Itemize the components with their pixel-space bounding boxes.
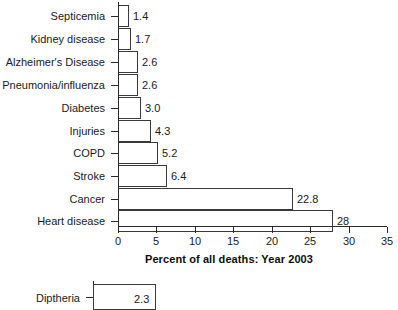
y-tick-kidney-disease — [111, 39, 118, 40]
category-label-stroke: Stroke — [73, 170, 105, 182]
bar-septicemia — [118, 5, 129, 27]
category-label-injuries: Injuries — [70, 125, 105, 137]
category-label-pneumonia-influenza: Pneumonia/influenza — [2, 79, 105, 91]
x-tick-label-25: 25 — [295, 235, 325, 247]
main-plot-area: Septicemia Kidney disease Alzheimer's Di… — [0, 0, 398, 250]
category-label-heart-disease: Heart disease — [37, 215, 105, 227]
x-tick-25 — [310, 227, 311, 233]
bar-heart-disease — [118, 210, 333, 232]
y-tick-copd — [111, 153, 118, 154]
y-tick-heart-disease — [111, 221, 118, 222]
y-tick-cancer — [111, 199, 118, 200]
y-tick-diabetes — [111, 108, 118, 109]
x-tick-label-5: 5 — [141, 235, 171, 247]
bar-cancer — [118, 188, 293, 210]
bar-pneumonia-influenza — [118, 74, 138, 96]
y-axis-line — [118, 2, 119, 226]
x-axis-line — [118, 226, 387, 227]
category-label-septicemia: Septicemia — [51, 10, 105, 22]
y-tick-injuries — [111, 131, 118, 132]
x-tick-10 — [195, 227, 196, 233]
value-label-septicemia: 1.4 — [133, 10, 148, 22]
bar-copd — [118, 142, 158, 164]
value-label-diptheria: 2.3 — [134, 293, 149, 305]
category-label-kidney-disease: Kidney disease — [30, 33, 105, 45]
secondary-plot-area: Diptheria 2.3 — [0, 281, 398, 305]
bar-diabetes — [118, 97, 141, 119]
bar-alzheimers-disease — [118, 51, 138, 73]
value-label-cancer: 22.8 — [297, 193, 318, 205]
x-tick-label-35: 35 — [372, 235, 398, 247]
x-tick-30 — [349, 227, 350, 233]
x-tick-20 — [272, 227, 273, 233]
x-tick-35 — [387, 227, 388, 233]
category-label-diabetes: Diabetes — [62, 102, 105, 114]
x-axis-title: Percent of all deaths: Year 2003 — [0, 253, 398, 265]
y-tick-alzheimers-disease — [111, 62, 118, 63]
value-label-diabetes: 3.0 — [145, 102, 160, 114]
bar-stroke — [118, 165, 167, 187]
value-label-copd: 5.2 — [162, 147, 177, 159]
x-tick-label-0: 0 — [103, 235, 133, 247]
category-label-cancer: Cancer — [70, 193, 105, 205]
y-tick-septicemia — [111, 16, 118, 17]
y-tick-diptheria — [86, 297, 93, 298]
x-tick-label-30: 30 — [334, 235, 364, 247]
value-label-alzheimers-disease: 2.6 — [142, 56, 157, 68]
value-label-kidney-disease: 1.7 — [135, 33, 150, 45]
x-tick-5 — [156, 227, 157, 233]
bar-kidney-disease — [118, 28, 131, 50]
x-tick-label-10: 10 — [180, 235, 210, 247]
value-label-stroke: 6.4 — [171, 170, 186, 182]
x-tick-label-20: 20 — [257, 235, 287, 247]
category-label-alzheimers-disease: Alzheimer's Disease — [6, 56, 105, 68]
x-tick-15 — [233, 227, 234, 233]
x-tick-label-15: 15 — [218, 235, 248, 247]
y-tick-stroke — [111, 176, 118, 177]
bar-injuries — [118, 120, 151, 142]
value-label-pneumonia-influenza: 2.6 — [142, 79, 157, 91]
y-tick-pneumonia-influenza — [111, 85, 118, 86]
x-tick-0 — [118, 227, 119, 233]
value-label-injuries: 4.3 — [155, 125, 170, 137]
category-label-copd: COPD — [73, 147, 105, 159]
category-label-diptheria: Diptheria — [36, 292, 80, 304]
